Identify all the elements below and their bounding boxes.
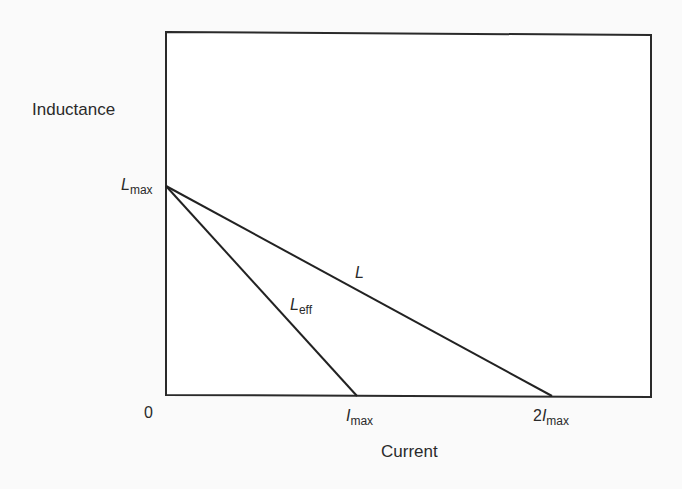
series-label-l-main: L: [355, 264, 364, 281]
x-tick-origin: 0: [144, 405, 153, 421]
series-label-leff-sub: eff: [299, 303, 312, 317]
series-label-l: L: [355, 265, 364, 281]
plot-frame: [166, 32, 651, 397]
y-tick-lmax-main: L: [121, 176, 130, 193]
y-tick-lmax: Lmax: [121, 177, 153, 193]
x-tick-imax: Imax: [346, 408, 373, 424]
y-axis-title: Inductance: [32, 101, 115, 118]
series-label-leff-main: L: [290, 296, 299, 313]
x-tick-2imax-sub: max: [546, 414, 569, 428]
x-axis-title: Current: [381, 443, 438, 460]
series-label-leff: Leff: [290, 297, 312, 313]
chart-canvas: [0, 0, 682, 489]
y-tick-lmax-sub: max: [130, 183, 153, 197]
x-tick-2imax-prefix: 2: [533, 407, 542, 424]
x-tick-2imax: 2Imax: [533, 408, 569, 424]
x-tick-imax-sub: max: [350, 414, 373, 428]
